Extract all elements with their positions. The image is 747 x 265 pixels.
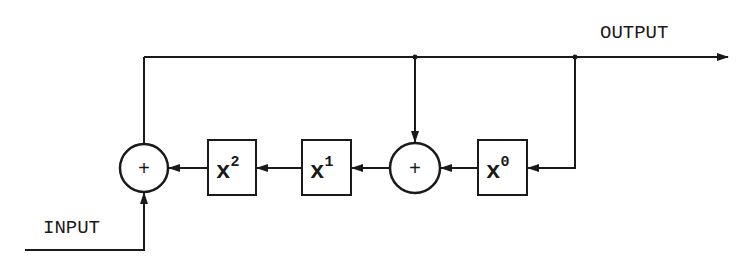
adder-middle-symbol: + bbox=[409, 158, 421, 181]
block-x1-label: x1 bbox=[310, 154, 333, 185]
adder-left-symbol: + bbox=[138, 158, 150, 181]
tap-line-right bbox=[528, 57, 575, 168]
lfsr-block-diagram: OUTPUT INPUT + + x2 x1 x0 bbox=[0, 0, 747, 265]
block-x0-label: x0 bbox=[486, 154, 509, 185]
block-x2-label: x2 bbox=[216, 154, 239, 185]
junction-dot-right bbox=[573, 55, 578, 60]
output-label: OUTPUT bbox=[600, 22, 668, 44]
input-label: INPUT bbox=[43, 217, 100, 239]
junction-dot-middle bbox=[413, 55, 418, 60]
